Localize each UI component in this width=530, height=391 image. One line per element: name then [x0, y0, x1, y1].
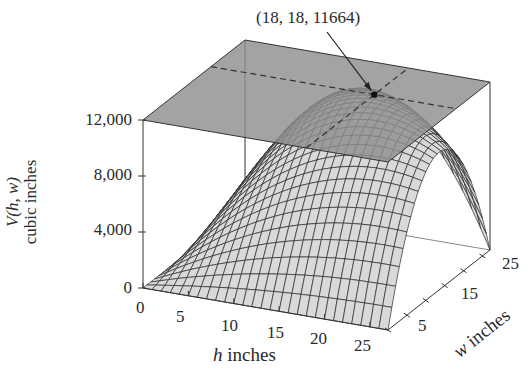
- z-axis-title-var: V(h, w): [4, 142, 22, 262]
- z-tick-0: 0: [62, 278, 132, 298]
- z-axis-title: V(h, w) cubic inches: [4, 142, 40, 262]
- h-axis-title: h inches: [213, 344, 276, 366]
- z-tick-8000: 8,000: [62, 165, 132, 185]
- h-tick-25: 25: [354, 336, 371, 356]
- surface-plot: [0, 0, 530, 391]
- h-tick-5: 5: [176, 307, 185, 327]
- h-axis-title-unit: inches: [223, 344, 276, 365]
- w-tick-25: 25: [502, 254, 519, 274]
- h-tick-15: 15: [267, 323, 284, 343]
- peak-annotation-label: (18, 18, 11664): [256, 8, 360, 28]
- w-tick-5: 5: [418, 316, 427, 336]
- z-tick-12000: 12,000: [62, 110, 132, 130]
- h-tick-10: 10: [221, 316, 238, 336]
- z-tick-4000: 4,000: [62, 220, 132, 240]
- w-tick-15: 15: [461, 284, 478, 304]
- z-axis-title-unit: cubic inches: [22, 142, 40, 262]
- h-tick-0: 0: [136, 298, 145, 318]
- h-tick-20: 20: [310, 329, 327, 349]
- h-axis-title-var: h: [213, 344, 223, 365]
